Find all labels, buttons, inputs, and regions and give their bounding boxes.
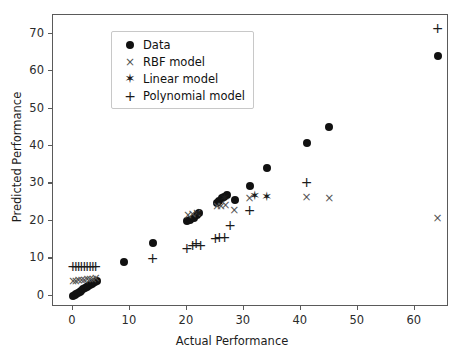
y-axis-tick-label: 60	[12, 63, 44, 77]
x-axis-tick	[243, 306, 244, 310]
legend-marker-x-icon: ×	[117, 56, 143, 68]
x-axis-label: Actual Performance	[0, 334, 464, 348]
data-point-plus: +	[224, 218, 236, 232]
data-point-circle	[120, 258, 128, 266]
data-point-circle	[325, 123, 333, 131]
data-point-circle	[149, 239, 157, 247]
y-axis-tick-label: 30	[12, 175, 44, 189]
legend-item-plus: +Polynomial model	[117, 87, 245, 104]
legend-item-label: Polynomial model	[143, 89, 245, 103]
y-axis-tick	[48, 70, 52, 71]
y-axis-tick	[48, 33, 52, 34]
data-point-star: ✶	[249, 189, 260, 202]
data-point-plus: +	[195, 238, 207, 252]
data-point-x: ×	[324, 192, 334, 204]
legend-item-star: ✶Linear model	[117, 70, 245, 87]
y-axis-tick-label: 20	[12, 213, 44, 227]
legend-item-label: Data	[143, 38, 170, 52]
data-point-plus: +	[244, 203, 256, 217]
scatter-plot-figure: Predicted Performance Actual Performance…	[0, 0, 464, 354]
data-point-plus: +	[432, 21, 444, 35]
x-axis-tick-label: 30	[236, 313, 251, 327]
data-point-x: ×	[433, 212, 443, 224]
y-axis-tick-label: 0	[12, 288, 44, 302]
legend-item-x: ×RBF model	[117, 53, 245, 70]
y-axis-tick	[48, 295, 52, 296]
data-point-circle	[303, 139, 311, 147]
y-axis-tick	[48, 145, 52, 146]
data-point-x: ×	[229, 204, 239, 216]
y-axis-tick-label: 70	[12, 26, 44, 40]
x-axis-tick-label: 50	[350, 313, 365, 327]
x-axis-tick	[357, 306, 358, 310]
data-point-circle	[263, 164, 271, 172]
x-axis-tick-label: 10	[122, 313, 137, 327]
legend-marker-circle-icon	[117, 41, 143, 49]
legend-item-circle: Data	[117, 36, 245, 53]
y-axis-label: Predicted Performance	[10, 57, 24, 257]
x-axis-tick-label: 60	[406, 313, 421, 327]
data-point-plus: +	[301, 175, 313, 189]
y-axis-tick	[48, 108, 52, 109]
x-axis-tick-label: 0	[68, 313, 75, 327]
chart-legend: Data×RBF model✶Linear model+Polynomial m…	[111, 31, 254, 109]
x-axis-tick	[300, 306, 301, 310]
x-axis-tick-label: 40	[293, 313, 308, 327]
y-axis-tick-label: 50	[12, 101, 44, 115]
x-axis-tick	[186, 306, 187, 310]
y-axis-tick	[48, 257, 52, 258]
data-point-star: ✶	[219, 191, 230, 204]
legend-marker-star-icon: ✶	[117, 72, 143, 85]
legend-item-label: Linear model	[143, 72, 218, 86]
data-point-circle	[434, 52, 442, 60]
y-axis-tick-label: 40	[12, 138, 44, 152]
data-point-plus: +	[90, 259, 102, 273]
x-axis-tick-label: 20	[179, 313, 194, 327]
x-axis-tick	[414, 306, 415, 310]
y-axis-tick	[48, 182, 52, 183]
y-axis-tick	[48, 220, 52, 221]
data-point-star: ✶	[193, 207, 204, 220]
legend-marker-plus-icon: +	[117, 89, 143, 103]
data-point-star: ✶	[261, 190, 272, 203]
y-axis-tick-label: 10	[12, 250, 44, 264]
data-point-x: ×	[302, 191, 312, 203]
legend-item-label: RBF model	[143, 55, 205, 69]
data-point-plus: +	[147, 251, 159, 265]
plot-area: ××××××××××××××××××××✶✶✶✶++++++++++++++++…	[52, 14, 448, 306]
x-axis-tick	[72, 306, 73, 310]
x-axis-tick	[129, 306, 130, 310]
